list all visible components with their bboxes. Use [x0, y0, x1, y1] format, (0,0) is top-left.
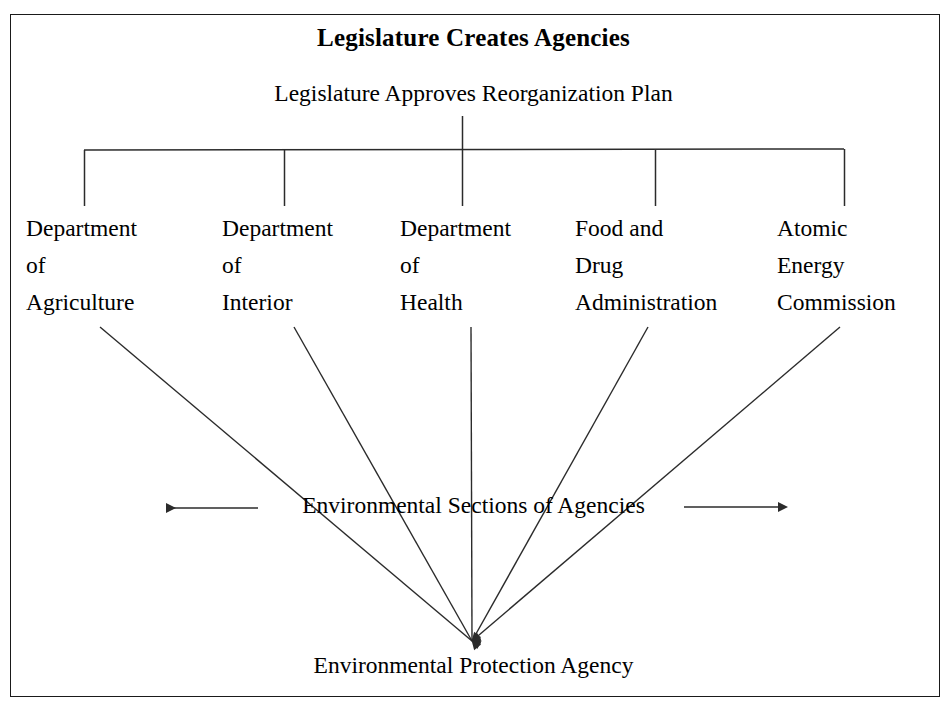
agency-label-line: Interior — [222, 284, 333, 321]
agency-label-line: Department — [222, 210, 333, 247]
node-department-of-agriculture: Department of Agriculture — [26, 210, 137, 321]
node-legislature-approves-reorganization-plan: Legislature Approves Reorganization Plan — [0, 80, 947, 107]
cut-off-text-above-figure — [0, 0, 947, 11]
agency-label-line: Agriculture — [26, 284, 137, 321]
agency-label-line: of — [400, 247, 511, 284]
node-department-of-interior: Department of Interior — [222, 210, 333, 321]
node-food-and-drug-administration: Food and Drug Administration — [575, 210, 717, 321]
node-environmental-protection-agency: Environmental Protection Agency — [0, 652, 947, 679]
agency-label-line: Department — [26, 210, 137, 247]
figure-page: Legislature Creates Agencies Legislature… — [0, 0, 947, 712]
agency-label-line: Administration — [575, 284, 717, 321]
node-environmental-sections-of-agencies: Environmental Sections of Agencies — [0, 492, 947, 519]
agency-label-line: of — [222, 247, 333, 284]
node-atomic-energy-commission: Atomic Energy Commission — [777, 210, 896, 321]
agency-label-line: Food and — [575, 210, 717, 247]
agency-label-line: Energy — [777, 247, 896, 284]
agency-label-line: Atomic — [777, 210, 896, 247]
agency-label-line: of — [26, 247, 137, 284]
agency-label-line: Health — [400, 284, 511, 321]
agency-label-line: Commission — [777, 284, 896, 321]
agency-label-line: Department — [400, 210, 511, 247]
agency-label-line: Drug — [575, 247, 717, 284]
figure-border — [10, 14, 940, 697]
figure-title: Legislature Creates Agencies — [0, 24, 947, 52]
node-department-of-health: Department of Health — [400, 210, 511, 321]
